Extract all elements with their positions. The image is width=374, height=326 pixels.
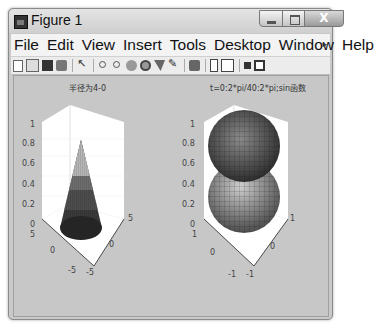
open-file-icon[interactable]	[26, 59, 39, 72]
x-tick: -1	[228, 270, 236, 279]
link-plot-icon[interactable]	[189, 60, 200, 71]
new-figure-icon[interactable]	[13, 60, 23, 72]
zoom-in-icon[interactable]	[98, 60, 109, 71]
hide-plot-tools-icon[interactable]	[244, 62, 251, 69]
toolbar-separator	[184, 59, 185, 72]
x-tick: 0	[210, 248, 215, 257]
z-tick: 0.2	[22, 200, 35, 209]
z-tick: 0.8	[22, 139, 35, 148]
z-tick: 0.6	[182, 159, 195, 168]
y-tick: 0	[109, 240, 114, 249]
figure-window: Figure 1 X File Edit View Insert Tools D…	[8, 8, 333, 320]
menu-insert[interactable]: Insert	[123, 36, 162, 54]
figure-toolbar	[11, 57, 330, 75]
toolbar-separator	[72, 59, 73, 72]
print-icon[interactable]	[56, 60, 67, 71]
minimize-button[interactable]	[259, 10, 283, 27]
x-tick: 1	[192, 230, 197, 239]
menu-file[interactable]: File	[14, 36, 39, 54]
menu-tools[interactable]: Tools	[170, 36, 206, 54]
show-plot-tools-icon[interactable]	[254, 60, 265, 71]
z-tick: 0.6	[22, 159, 35, 168]
z-tick: 1	[190, 120, 195, 129]
z-tick: 0.4	[22, 180, 35, 189]
plot-title-cone: 半径为4-0	[69, 82, 106, 93]
z-tick: 0.2	[182, 200, 195, 209]
toolbar-separator	[239, 59, 240, 72]
plot-title-spheres: t=0:2*pi/40:2*pi;sin函数	[210, 82, 306, 93]
x-tick: 0	[50, 246, 55, 255]
menu-help[interactable]: Help	[342, 36, 374, 54]
window-title: Figure 1	[31, 12, 82, 28]
menu-view[interactable]: View	[82, 36, 115, 54]
edit-plot-arrow-icon[interactable]	[77, 60, 88, 71]
z-tick: 0.8	[182, 139, 195, 148]
save-icon[interactable]	[42, 60, 53, 71]
brush-icon[interactable]	[168, 60, 179, 71]
z-tick: 0	[190, 220, 195, 229]
toolbar-separator	[205, 59, 206, 72]
menu-edit[interactable]: Edit	[47, 36, 74, 54]
y-tick: 1	[290, 214, 295, 223]
axes-spheres[interactable]	[204, 105, 288, 266]
close-button[interactable]: X	[304, 10, 344, 27]
title-bar[interactable]: Figure 1 X	[9, 9, 332, 33]
colorbar-icon[interactable]	[210, 59, 218, 72]
y-tick: -1	[246, 270, 254, 279]
menu-overflow-icon[interactable]: ▸	[322, 39, 327, 49]
maximize-button[interactable]	[282, 10, 305, 27]
x-tick: -5	[68, 266, 76, 275]
y-tick: -5	[86, 268, 94, 277]
toolbar-separator	[93, 59, 94, 72]
rotate-3d-icon[interactable]	[140, 60, 151, 71]
z-tick: 1	[30, 120, 35, 129]
matlab-figure-icon	[14, 15, 28, 29]
x-tick: 5	[30, 230, 35, 239]
legend-icon[interactable]	[221, 59, 234, 72]
figure-canvas[interactable]: 半径为4-0 1 0.8 0.6 0.4 0.2 0 5 0 -5 -5 0 5…	[13, 75, 329, 317]
plots-svg	[14, 76, 328, 316]
y-tick: 0	[270, 242, 275, 251]
z-tick: 0	[30, 220, 35, 229]
zoom-out-icon[interactable]	[112, 60, 123, 71]
y-tick: 5	[128, 214, 133, 223]
z-tick: 0.4	[182, 180, 195, 189]
data-cursor-icon[interactable]	[154, 60, 165, 71]
pan-hand-icon[interactable]	[126, 60, 137, 71]
menu-desktop[interactable]: Desktop	[214, 36, 271, 54]
menu-bar: File Edit View Insert Tools Desktop Wind…	[11, 34, 330, 57]
